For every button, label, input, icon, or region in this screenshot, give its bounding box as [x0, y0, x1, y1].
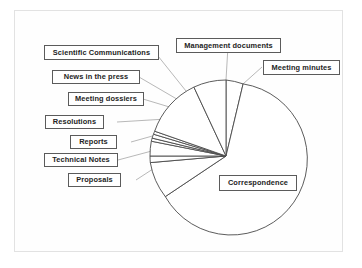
callout-management-documents[interactable]: Management documents [176, 38, 281, 53]
callout-label-text: Reports [79, 138, 108, 145]
callout-correspondence[interactable]: Correspondence [219, 175, 297, 191]
callout-technical-notes[interactable]: Technical Notes [44, 153, 118, 167]
pie-chart-figure: Scientific Communications News in the pr… [0, 0, 362, 268]
callout-label-text: Management documents [184, 42, 273, 49]
callout-resolutions[interactable]: Resolutions [45, 115, 104, 129]
callout-reports[interactable]: Reports [70, 135, 117, 149]
callout-meeting-dossiers[interactable]: Meeting dossiers [68, 92, 144, 106]
callout-label-text: Scientific Communications [53, 49, 150, 56]
callout-label-text: Correspondence [228, 179, 288, 186]
callout-news-in-the-press[interactable]: News in the press [52, 70, 140, 84]
callout-label-text: Resolutions [53, 118, 96, 125]
callout-label-text: Meeting dossiers [75, 95, 137, 102]
callout-scientific-communications[interactable]: Scientific Communications [44, 45, 159, 60]
callout-label-text: News in the press [64, 73, 129, 80]
callout-label-text: Technical Notes [52, 156, 110, 163]
callout-label-text: Proposals [76, 176, 113, 183]
callout-meeting-minutes[interactable]: Meeting minutes [263, 60, 340, 75]
callout-proposals[interactable]: Proposals [68, 173, 121, 187]
callout-label-text: Meeting minutes [272, 64, 332, 71]
